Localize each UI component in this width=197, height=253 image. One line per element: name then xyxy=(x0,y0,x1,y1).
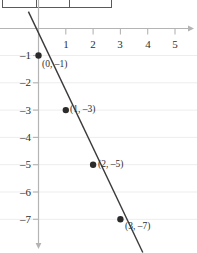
point-label-1: (1, –3) xyxy=(70,105,95,115)
coordinate-plane: 1 2 3 4 5 –1 –2 –3 –4 –5 –6 –7 (0, –1) (… xyxy=(0,0,197,253)
x-tick-marks xyxy=(66,29,175,35)
point-label-0: (0, –1) xyxy=(42,60,67,70)
y-tick-label-neg2: –2 xyxy=(13,77,31,88)
y-tick-label-neg4: –4 xyxy=(13,132,31,143)
y-tick-label-neg1: –1 xyxy=(13,50,31,61)
x-axis-arrow xyxy=(188,25,194,31)
y-tick-label-neg5: –5 xyxy=(13,159,31,170)
point-label-2: (2, –5) xyxy=(98,160,123,170)
x-tick-label-3: 3 xyxy=(112,39,128,50)
data-point xyxy=(63,107,69,113)
x-tick-label-1: 1 xyxy=(58,39,74,50)
data-point xyxy=(35,52,41,58)
y-tick-label-neg3: –3 xyxy=(13,105,31,116)
x-tick-label-4: 4 xyxy=(140,39,156,50)
y-tick-label-neg7: –7 xyxy=(13,214,31,225)
graph-figure: 1 2 3 4 5 –1 –2 –3 –4 –5 –6 –7 (0, –1) (… xyxy=(0,0,197,253)
x-tick-label-5: 5 xyxy=(167,39,183,50)
x-tick-label-2: 2 xyxy=(85,39,101,50)
point-label-3: (3, –7) xyxy=(125,222,150,232)
x-axis xyxy=(0,25,194,31)
y-tick-marks xyxy=(33,56,39,220)
y-tick-label-neg6: –6 xyxy=(13,187,31,198)
data-point xyxy=(117,216,123,222)
data-point xyxy=(90,162,96,168)
y-axis-arrow xyxy=(36,243,42,249)
